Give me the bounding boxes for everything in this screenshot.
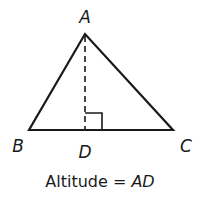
vertex-label-a: A	[78, 7, 91, 27]
triangle-diagram: A B D C Altitude = AD	[0, 0, 198, 197]
right-angle-marker	[85, 113, 102, 130]
vertex-label-c: C	[180, 136, 192, 156]
triangle-abc	[29, 34, 173, 130]
caption-prefix: Altitude =	[45, 172, 131, 191]
caption-value: AD	[130, 172, 154, 191]
vertex-label-b: B	[12, 136, 24, 156]
caption: Altitude = AD	[45, 172, 154, 191]
vertex-label-d: D	[78, 142, 91, 162]
